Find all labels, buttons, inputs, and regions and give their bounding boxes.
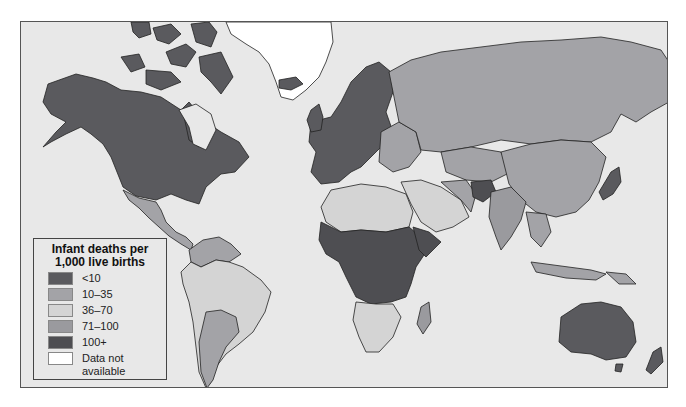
southern-africa <box>353 302 401 352</box>
north-america <box>43 74 249 204</box>
legend-label: Data not available <box>82 352 142 378</box>
legend-title: Infant deaths per 1,000 live births <box>40 243 160 269</box>
legend-item-lt10: <10 <box>48 272 160 288</box>
legend-item-no-data: Data not available <box>48 352 160 380</box>
legend-label: 71–100 <box>82 320 119 333</box>
indonesia <box>531 262 606 280</box>
australia <box>559 302 636 360</box>
legend-label: 10–35 <box>82 288 113 301</box>
legend-swatch <box>48 352 73 365</box>
legend-swatch <box>48 304 73 317</box>
southeast-asia <box>526 212 551 247</box>
legend-item-36-70: 36–70 <box>48 304 160 320</box>
legend-label: 100+ <box>82 336 107 349</box>
legend-swatch <box>48 336 73 349</box>
legend-label: <10 <box>82 272 101 285</box>
legend-swatch <box>48 288 73 301</box>
new-guinea <box>606 272 636 284</box>
new-zealand <box>646 347 663 374</box>
madagascar <box>417 302 431 334</box>
russia <box>389 37 668 152</box>
legend-item-100plus: 100+ <box>48 336 160 352</box>
india <box>489 187 526 250</box>
legend-swatch <box>48 320 73 333</box>
legend-label: 36–70 <box>82 304 113 317</box>
central-asia <box>441 147 511 182</box>
legend-item-71-100: 71–100 <box>48 320 160 336</box>
legend-item-10-35: 10–35 <box>48 288 160 304</box>
central-africa <box>319 222 426 304</box>
map-legend: Infant deaths per 1,000 live births <10 … <box>33 238 167 380</box>
north-africa <box>321 184 413 232</box>
canadian-arctic-islands <box>121 22 233 94</box>
united-kingdom <box>307 104 323 132</box>
tasmania <box>615 364 623 372</box>
legend-swatch <box>48 272 73 285</box>
japan <box>599 167 621 200</box>
